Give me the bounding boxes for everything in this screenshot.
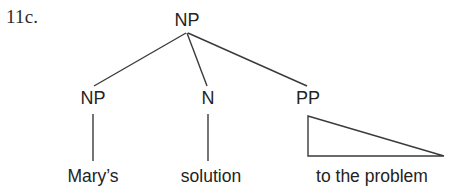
branch-root-to-np [94, 33, 186, 86]
tree-lines-svg [0, 0, 450, 191]
tree-leaf-solution: solution [181, 168, 241, 186]
tree-node-root-np: NP [174, 11, 199, 29]
tree-node-pp: PP [296, 89, 320, 107]
syntax-tree-figure: 11c. NP NP N PP Mary’s solution to the p… [0, 0, 450, 191]
tree-node-np-left: NP [80, 89, 105, 107]
tree-leaf-marys: Mary’s [67, 168, 118, 186]
pp-triangle [308, 116, 444, 156]
tree-node-n: N [202, 89, 215, 107]
branch-root-to-pp [188, 33, 307, 86]
branch-root-to-n [187, 33, 207, 86]
tree-leaf-to-the-problem: to the problem [316, 168, 428, 186]
